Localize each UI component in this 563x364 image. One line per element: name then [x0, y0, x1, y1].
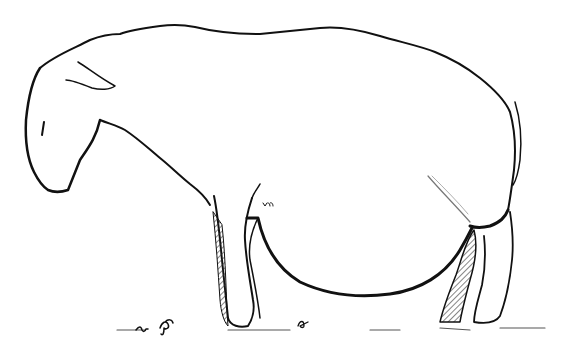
rear-leg-hatched	[440, 230, 476, 322]
back-outline	[40, 25, 515, 210]
neck-outline	[100, 120, 210, 205]
ear	[66, 62, 115, 89]
ground-line	[117, 328, 545, 330]
belly-outline	[247, 218, 472, 296]
sheep-drawing: Line drawing of a sheep standing in prof…	[0, 0, 563, 364]
sheep-illustration	[0, 0, 563, 364]
